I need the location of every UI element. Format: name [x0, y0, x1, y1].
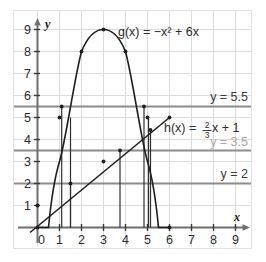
ytick-label-9: 9	[24, 23, 31, 37]
ytick-label-2: 2	[24, 177, 31, 191]
point-h-3-3	[102, 160, 106, 164]
function-label-h-numerator: 2	[205, 120, 210, 130]
x-axis-label: x	[233, 210, 240, 224]
level-label-y-5.5: y = 5.5	[210, 90, 248, 104]
xtick-label-7: 7	[188, 233, 195, 247]
point-h-3.75-3.5	[118, 149, 122, 153]
function-label-h-prefix: h(x) =	[164, 121, 196, 135]
ytick-label-6: 6	[24, 89, 31, 103]
xtick-label-9: 9	[232, 233, 239, 247]
point-g-1-5	[58, 116, 62, 120]
point-h-6-5	[168, 116, 172, 120]
function-label-g: g(x) = −x² + 6x	[118, 25, 200, 39]
xtick-label-2: 2	[78, 233, 85, 247]
graph-figure: y x 1 2 3 4 5 6 7 8 9 0 1 2 3 4 5 6 7 8 …	[0, 0, 266, 262]
point-g-at-5.5-right	[142, 105, 146, 109]
point-h-intersection	[149, 128, 153, 132]
level-label-y-2: y = 2	[221, 167, 248, 181]
point-g-2-8	[80, 50, 84, 54]
function-label-h-suffix: x + 1	[212, 121, 239, 135]
coordinate-plane: y x 1 2 3 4 5 6 7 8 9 0 1 2 3 4 5 6 7 8 …	[0, 0, 266, 262]
xtick-label-3: 3	[100, 233, 107, 247]
ytick-label-1: 1	[24, 199, 31, 213]
y-axis-label: y	[43, 17, 51, 31]
xtick-label-1: 1	[56, 233, 63, 247]
point-g-3-9	[102, 28, 106, 32]
ytick-label-5: 5	[24, 111, 31, 125]
point-h-1.5-2	[69, 182, 73, 186]
function-label-h-denominator: 3	[205, 130, 210, 140]
ytick-label-4: 4	[24, 133, 31, 147]
xtick-label-8: 8	[210, 233, 217, 247]
ytick-label-3: 3	[24, 155, 31, 169]
y-tick-labels: 1 2 3 4 5 6 7 8 9	[24, 23, 31, 213]
point-g-5-5	[146, 116, 150, 120]
point-g-4-8	[124, 50, 128, 54]
point-h-0-1	[36, 204, 40, 208]
xtick-label-0: 0	[38, 233, 45, 247]
level-label-y-3.5: y = 3.5	[210, 135, 248, 149]
xtick-label-6: 6	[166, 233, 173, 247]
ytick-label-7: 7	[24, 67, 31, 81]
point-g-at-5.5-left	[60, 105, 64, 109]
point-g-6-0	[168, 226, 172, 230]
xtick-label-5: 5	[144, 233, 151, 247]
xtick-label-4: 4	[122, 233, 129, 247]
ytick-label-8: 8	[24, 45, 31, 59]
